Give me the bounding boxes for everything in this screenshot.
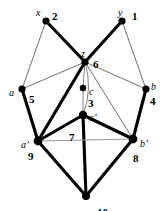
node-name-label-ap: a’: [21, 140, 29, 150]
graph-diagram-figure: x2y1z6a5b4c3c’7a’9b’8u10: [0, 0, 166, 211]
node-name-label-z: z: [81, 49, 85, 59]
node-number-label-cp: 7: [69, 132, 75, 143]
node-number-label-a: 5: [29, 94, 35, 105]
node-number-label-x: 2: [52, 11, 58, 22]
node-name-label-cp: c’: [89, 113, 97, 123]
graph-node-y: [118, 17, 125, 24]
node-name-label-u: u: [84, 209, 89, 211]
graph-edge-bp-u: [86, 139, 133, 196]
graph-node-a: [18, 85, 25, 92]
node-number-label-c: 3: [88, 98, 94, 109]
node-number-label-b: 4: [150, 96, 156, 107]
graph-edge-y-z: [85, 21, 122, 62]
graph-node-x: [42, 17, 49, 24]
graph-node-bp: [129, 135, 138, 144]
graph-edge-y-b: [122, 21, 146, 89]
node-name-label-a: a: [9, 88, 14, 98]
graph-node-ap: [34, 137, 43, 146]
node-name-label-bp: b’: [140, 139, 148, 149]
node-name-label-x: x: [36, 8, 40, 18]
graph-edge-x-z: [46, 21, 85, 62]
node-number-label-bp: 8: [133, 153, 139, 164]
graph-node-cp: [79, 111, 87, 119]
graph-edge-x-a: [22, 21, 46, 89]
graph-node-z: [81, 58, 88, 65]
graph-node-u: [82, 192, 90, 200]
node-number-label-u: 10: [97, 207, 108, 211]
node-number-label-ap: 9: [28, 151, 34, 162]
graph-canvas: [0, 0, 166, 211]
node-number-label-z: 6: [93, 59, 99, 70]
graph-node-c: [80, 85, 86, 91]
node-name-label-y: y: [118, 8, 122, 18]
node-number-label-y: 1: [132, 11, 138, 22]
graph-edge-cp-u: [83, 115, 86, 196]
graph-edge-b-bp: [133, 89, 146, 139]
node-name-label-b: b: [151, 82, 156, 92]
graph-edge-ap-u: [38, 141, 86, 196]
node-name-label-c: c: [89, 87, 93, 97]
graph-node-b: [142, 85, 149, 92]
